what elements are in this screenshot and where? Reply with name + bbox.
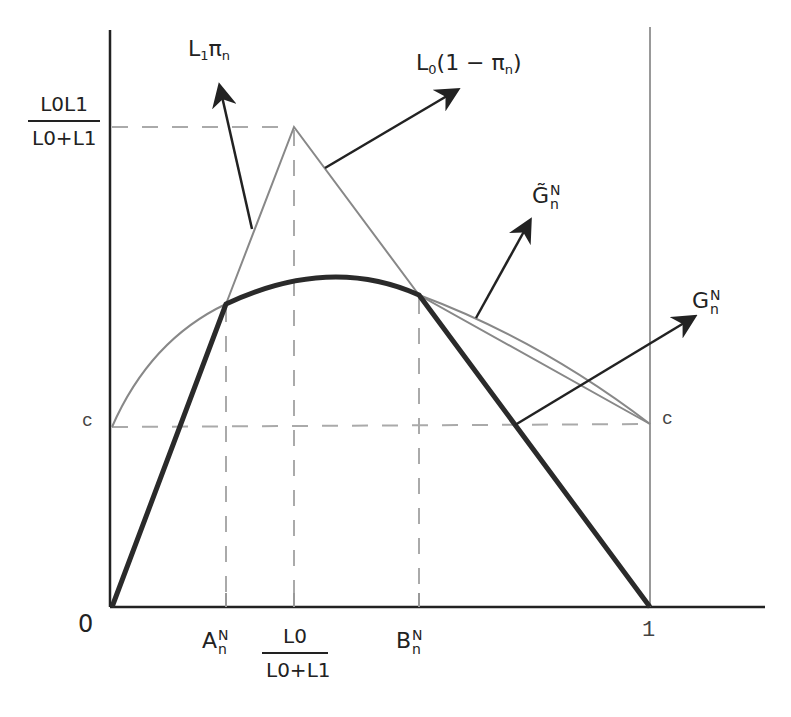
dashed-c-horizontal (112, 424, 650, 427)
y-peak-label: L0L1 L0+L1 (28, 92, 100, 150)
g-curve (112, 277, 650, 607)
x-label-mid: L0 L0+L1 (262, 624, 328, 682)
label-l0: L0(1 − πn) (416, 52, 522, 76)
fraction-bar (28, 120, 100, 122)
c-right-label: c (662, 410, 673, 428)
g-tilde-curve (112, 277, 650, 427)
y-peak-denominator: L0+L1 (28, 126, 100, 150)
x-label-b: BNn (396, 628, 423, 656)
label-g-tilde: G̃Nn (532, 183, 561, 211)
origin-label: 0 (78, 612, 93, 636)
arrow-l1pi (221, 92, 252, 229)
diagram-canvas (0, 0, 791, 717)
y-peak-numerator: L0L1 (28, 92, 100, 116)
arrow-g-tilde (476, 226, 527, 318)
x-end-label: 1 (642, 620, 655, 642)
label-g: GNn (692, 288, 721, 316)
arrow-l0 (325, 93, 452, 168)
label-l1-pi: L1πn (188, 38, 230, 62)
x-label-a: ANn (202, 628, 229, 656)
c-left-label: c (82, 412, 93, 430)
